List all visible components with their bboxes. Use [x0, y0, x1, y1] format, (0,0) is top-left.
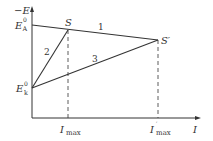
line-label-1: 1 [98, 22, 104, 32]
line-label-3: 3 [92, 54, 98, 64]
svg-text:A: A [22, 25, 28, 33]
point-label-s-prime: S′ [161, 35, 171, 46]
line-label-2: 2 [44, 47, 50, 57]
svg-text:′: ′ [156, 120, 158, 127]
line-2 [32, 30, 68, 88]
x-axis-label: I [192, 124, 198, 135]
point-label-s: S [65, 17, 72, 28]
line-1 [32, 25, 158, 40]
x-axis-arrow-icon [195, 116, 201, 120]
line-3 [32, 40, 158, 88]
polarization-diagram: −E E 0 A E 0 k S S′ 1 2 3 I max I ′ max … [0, 0, 213, 141]
y-axis-label: −E [14, 5, 30, 16]
tick-label-ek0: E 0 k [15, 80, 28, 97]
x-axis [32, 116, 201, 120]
svg-text:max: max [156, 129, 171, 137]
svg-text:I: I [149, 124, 155, 135]
svg-text:0: 0 [24, 80, 28, 87]
y-axis-arrow-icon [30, 6, 34, 12]
tick-label-imax: I max [59, 124, 81, 137]
svg-text:k: k [24, 89, 28, 97]
svg-text:0: 0 [23, 16, 27, 23]
y-axis [30, 6, 34, 118]
svg-text:E: E [15, 83, 24, 94]
tick-label-imax-prime: I ′ max [149, 120, 171, 137]
tick-label-ea0: E 0 A [14, 16, 28, 33]
svg-text:I: I [59, 124, 65, 135]
svg-text:max: max [66, 129, 81, 137]
